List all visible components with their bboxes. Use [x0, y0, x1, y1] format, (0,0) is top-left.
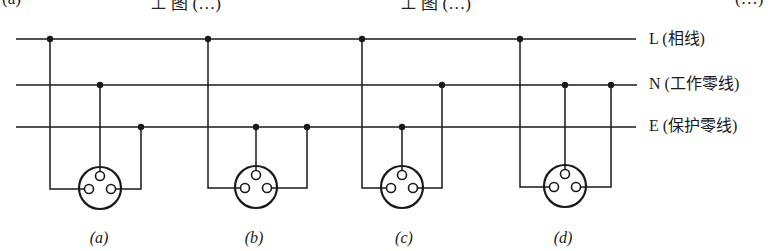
figure-label-b: (b)	[245, 229, 264, 247]
socket-pin-right-icon	[409, 184, 418, 193]
bus-label-N: N (工作零线)	[649, 75, 739, 93]
socket-pin-left-icon	[387, 184, 396, 193]
junction-dot-N	[439, 82, 445, 88]
junction-dot-N	[608, 82, 614, 88]
bus-lines	[16, 39, 637, 127]
wire-left-d	[520, 39, 550, 187]
junction-dot-E	[399, 124, 405, 130]
figure-label-d: (d)	[554, 229, 573, 247]
socket-b	[205, 36, 310, 208]
junction-dot-L	[47, 36, 53, 42]
wire-right-c	[418, 85, 443, 188]
junction-dot-E	[138, 124, 144, 130]
socket-a	[47, 36, 144, 209]
socket-pin-left-icon	[241, 184, 250, 193]
wire-right-d	[581, 85, 612, 187]
junction-dot-N	[97, 82, 103, 88]
figure-label-c: (c)	[395, 229, 413, 247]
socket-pin-top-icon	[252, 171, 261, 180]
socket-pin-right-icon	[572, 183, 581, 192]
socket-pin-right-icon	[107, 185, 116, 194]
bus-label-L: L (相线)	[649, 30, 705, 48]
wire-right-b	[272, 127, 308, 188]
socket-pin-right-icon	[263, 184, 272, 193]
junction-dot-L	[517, 36, 523, 42]
junction-dot-E	[253, 124, 259, 130]
wire-left-c	[362, 39, 387, 188]
socket-d	[517, 36, 614, 207]
bus-label-E: E (保护零线)	[649, 117, 737, 135]
wire-left-b	[208, 39, 241, 188]
socket-pin-top-icon	[96, 172, 105, 181]
junction-dot-L	[359, 36, 365, 42]
socket-pin-left-icon	[85, 185, 94, 194]
socket-pin-top-icon	[561, 170, 570, 179]
socket-groups	[47, 36, 614, 209]
junction-dot-E	[304, 124, 310, 130]
junction-dot-N	[562, 82, 568, 88]
wire-left-a	[50, 39, 85, 189]
socket-pin-top-icon	[398, 171, 407, 180]
socket-pin-left-icon	[550, 183, 559, 192]
junction-dot-L	[205, 36, 211, 42]
figure-label-a: (a)	[90, 229, 109, 247]
socket-c	[359, 36, 445, 208]
